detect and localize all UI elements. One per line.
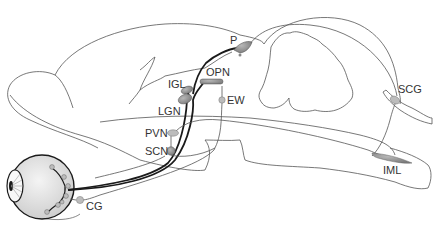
iml-nucleus	[372, 153, 412, 163]
label-scg: SCG	[398, 84, 422, 95]
pineal-dot	[239, 54, 242, 57]
label-lgn: LGN	[158, 106, 181, 117]
opn-nucleus	[200, 79, 223, 84]
label-igl: IGL	[168, 79, 186, 90]
eye	[7, 155, 80, 220]
label-iml: IML	[383, 165, 401, 176]
label-pvn: PVN	[145, 128, 168, 139]
label-ew: EW	[227, 95, 245, 106]
label-p: P	[230, 35, 237, 46]
ew-nucleus	[219, 97, 225, 103]
lgn-nucleus	[177, 92, 193, 105]
brain-outline	[8, 17, 432, 188]
pvn-nucleus	[168, 130, 179, 136]
diagram-svg	[0, 0, 441, 228]
label-opn: OPN	[206, 67, 230, 78]
label-cg: CG	[86, 201, 103, 212]
label-scn: SCN	[145, 146, 168, 157]
cg-nucleus	[76, 196, 83, 203]
brain-pathway-diagram: P OPN IGL LGN EW PVN SCN CG SCG IML	[0, 0, 441, 228]
scg-nucleus	[389, 94, 401, 105]
autonomic-pathways	[70, 24, 397, 200]
